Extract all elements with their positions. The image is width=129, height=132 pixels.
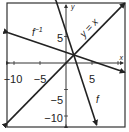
- f-inverse-superscript: −1: [35, 26, 43, 33]
- x-axis-label: x: [119, 54, 124, 61]
- y-axis-label: y: [70, 3, 75, 11]
- y-tick-label: 5: [57, 32, 63, 44]
- x-tick-label: −5: [34, 73, 47, 85]
- x-tick-label: −10: [4, 73, 23, 85]
- x-tick-label: 5: [89, 73, 95, 85]
- y-tick-label: −10: [44, 112, 63, 124]
- y-tick-label: −5: [50, 94, 63, 106]
- function-inverse-graph: −10 −5 5 5 −5 −10 x y y = x f f−1: [0, 0, 129, 132]
